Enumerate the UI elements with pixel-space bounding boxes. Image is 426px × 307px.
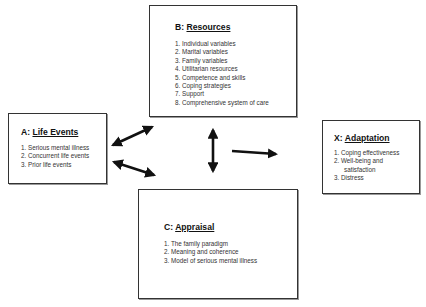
arrow-a-b [113,127,152,145]
arrows-layer [0,0,426,307]
arrow-to-x [232,151,276,154]
arrow-a-c [114,162,154,175]
